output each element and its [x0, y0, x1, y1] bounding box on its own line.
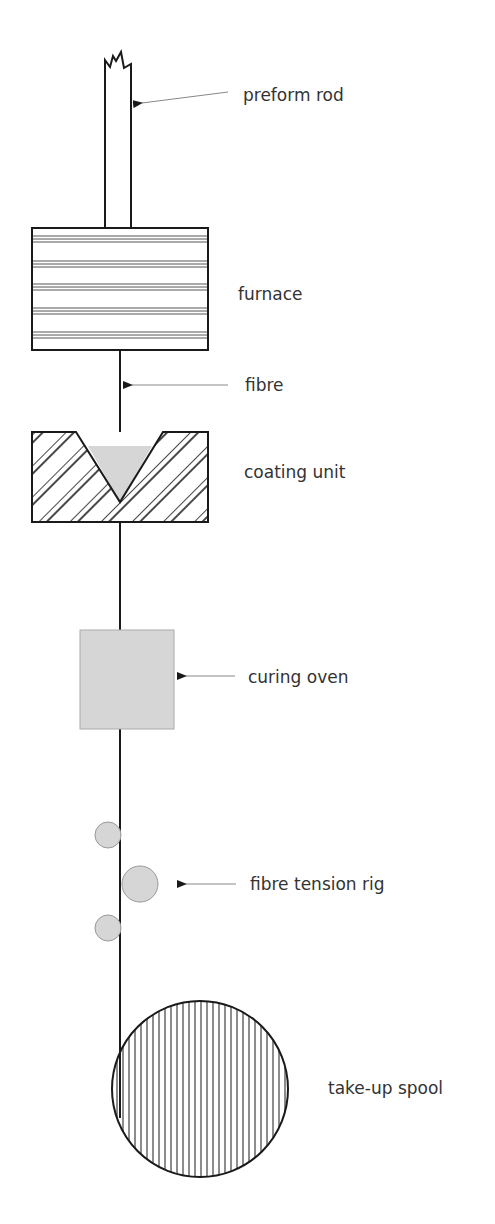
- label-fibre-tension-rig: fibre tension rig: [250, 874, 385, 894]
- preform-rod-leader: [142, 92, 228, 103]
- curing-oven: [80, 630, 174, 729]
- fibre-tension-rig: [95, 822, 158, 941]
- label-take-up-spool: take-up spool: [328, 1078, 443, 1098]
- furnace: [32, 228, 208, 350]
- fibre-drawing-diagram: preform rod furnace fibre coating unit: [0, 0, 495, 1224]
- label-coating-unit: coating unit: [244, 462, 346, 482]
- take-up-spool: [112, 1001, 288, 1177]
- label-fibre: fibre: [245, 375, 284, 395]
- preform-rod: [105, 52, 131, 228]
- coating-unit: [32, 432, 208, 522]
- label-curing-oven: curing oven: [248, 667, 349, 687]
- label-furnace: furnace: [238, 284, 302, 304]
- label-preform-rod: preform rod: [243, 85, 344, 105]
